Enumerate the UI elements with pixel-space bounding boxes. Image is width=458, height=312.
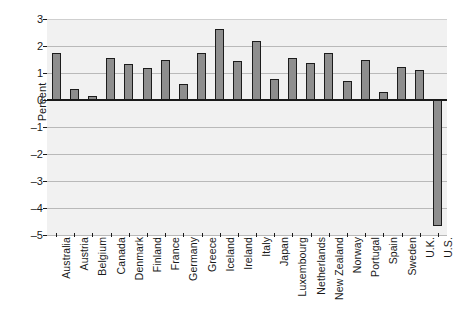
x-tick: Austria xyxy=(65,237,83,311)
x-tick: Germany xyxy=(174,237,192,311)
x-tick: France xyxy=(156,237,174,311)
y-tick-label: –3 xyxy=(3,175,43,187)
y-tick-label: –5 xyxy=(3,229,43,241)
bar xyxy=(288,58,297,100)
x-tick: Netherlands xyxy=(302,237,320,311)
x-tick-mark xyxy=(74,233,75,237)
x-tick-mark xyxy=(256,233,257,237)
x-tick-mark xyxy=(202,233,203,237)
y-tick-label: 3 xyxy=(3,13,43,25)
x-tick-mark xyxy=(329,233,330,237)
x-tick: Greece xyxy=(192,237,210,311)
x-tick-mark xyxy=(274,233,275,237)
bar xyxy=(415,70,424,100)
bar xyxy=(143,68,152,100)
x-tick-mark xyxy=(311,233,312,237)
x-tick: U.S. xyxy=(429,237,447,311)
bar xyxy=(343,81,352,100)
x-tick: Iceland xyxy=(211,237,229,311)
bar xyxy=(270,79,279,100)
x-tick: Japan xyxy=(265,237,283,311)
x-tick: Luxembourg xyxy=(283,237,301,311)
y-tick-label: 1 xyxy=(3,67,43,79)
x-tick: Denmark xyxy=(120,237,138,311)
bar xyxy=(106,58,115,100)
x-tick-mark xyxy=(365,233,366,237)
x-tick: Belgium xyxy=(83,237,101,311)
bar xyxy=(324,53,333,100)
bar xyxy=(433,100,442,226)
x-tick-mark xyxy=(402,233,403,237)
x-tick: U.K. xyxy=(411,237,429,311)
y-tick-label: 0 xyxy=(3,94,43,106)
x-tick-mark xyxy=(238,233,239,237)
x-tick-mark xyxy=(183,233,184,237)
bar xyxy=(161,60,170,100)
x-tick-mark xyxy=(92,233,93,237)
bar-chart: Percent 3210–1–2–3–4–5 AustraliaAustriaB… xyxy=(0,0,458,312)
x-tick: Ireland xyxy=(229,237,247,311)
bar xyxy=(233,61,242,100)
y-axis-ticks: 3210–1–2–3–4–5 xyxy=(0,19,43,235)
x-tick-mark xyxy=(220,233,221,237)
bar xyxy=(52,53,61,100)
y-tick-label: 2 xyxy=(3,40,43,52)
zero-axis-line xyxy=(47,99,447,101)
bar xyxy=(124,64,133,100)
bar xyxy=(197,53,206,100)
x-tick-mark xyxy=(56,233,57,237)
x-tick-mark xyxy=(147,233,148,237)
x-tick-label: U.S. xyxy=(442,237,454,258)
bar xyxy=(215,29,224,100)
x-tick-mark xyxy=(111,233,112,237)
bar xyxy=(179,84,188,100)
x-tick: Australia xyxy=(47,237,65,311)
x-tick-mark xyxy=(383,233,384,237)
x-tick: Norway xyxy=(338,237,356,311)
x-tick-mark xyxy=(292,233,293,237)
x-tick: New Zealand xyxy=(320,237,338,311)
bar xyxy=(397,67,406,100)
x-tick-mark xyxy=(438,233,439,237)
y-tick-label: –1 xyxy=(3,121,43,133)
x-tick-mark xyxy=(165,233,166,237)
y-tick-label: –2 xyxy=(3,148,43,160)
bar xyxy=(361,60,370,101)
x-axis-labels: AustraliaAustriaBelgiumCanadaDenmarkFinl… xyxy=(47,237,447,311)
x-tick: Spain xyxy=(374,237,392,311)
bar-series xyxy=(47,19,447,235)
x-tick-mark xyxy=(420,233,421,237)
bar xyxy=(252,41,261,100)
x-tick-mark xyxy=(347,233,348,237)
x-tick: Finland xyxy=(138,237,156,311)
x-tick-mark xyxy=(129,233,130,237)
x-tick: Canada xyxy=(102,237,120,311)
x-tick: Italy xyxy=(247,237,265,311)
x-tick: Portugal xyxy=(356,237,374,311)
bar xyxy=(306,63,315,100)
x-tick: Sweden xyxy=(392,237,410,311)
y-tick-label: –4 xyxy=(3,202,43,214)
